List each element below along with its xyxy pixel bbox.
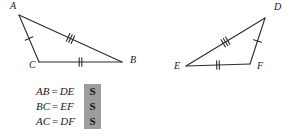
statement-left-term: AC [36,115,50,127]
vertex-label-F: F [256,60,264,71]
statement-equation: BC=EF [36,99,84,114]
statement-operator: = [49,85,59,97]
vertex-label-C: C [29,59,36,70]
statement-right-term: DE [60,85,75,97]
triangles-figure: ACBDEF [0,0,300,82]
statement-operator: = [50,100,60,112]
statement-equation: AB=DE [36,84,84,99]
congruence-statements-table: AB=DESBC=EFSAC=DFS [36,84,101,129]
statement-badge-cell: S [84,84,101,99]
tick-group-ED-3 [221,37,230,47]
triangle-def: DEF [173,1,282,71]
side-congruence-badge: S [84,99,101,114]
statement-operator: = [50,115,60,127]
statements-block: AB=DESBC=EFSAC=DFS [0,84,300,136]
statement-left-term: BC [36,100,50,112]
statement-equation: AC=DF [36,114,84,129]
geometry-figure-page: ACBDEF AB=DESBC=EFSAC=DFS [0,0,300,136]
statement-row: BC=EFS [36,99,101,114]
vertex-label-A: A [9,0,17,11]
side-congruence-badge: S [84,114,101,129]
side-congruence-badge: S [84,84,101,99]
statement-badge-cell: S [84,114,101,129]
statements-body: AB=DESBC=EFSAC=DFS [36,84,101,129]
statement-row: AB=DES [36,84,101,99]
side-EF [186,64,250,66]
tick-group-AB-3 [66,34,74,44]
statement-badge-cell: S [84,99,101,114]
statement-right-term: DF [60,115,75,127]
statement-right-term: EF [60,100,73,112]
statement-row: AC=DFS [36,114,101,129]
vertex-label-B: B [130,54,136,65]
vertex-label-D: D [273,1,282,12]
statement-left-term: AB [36,85,49,97]
vertex-label-E: E [173,60,180,71]
triangle-abc: ACB [9,0,136,70]
